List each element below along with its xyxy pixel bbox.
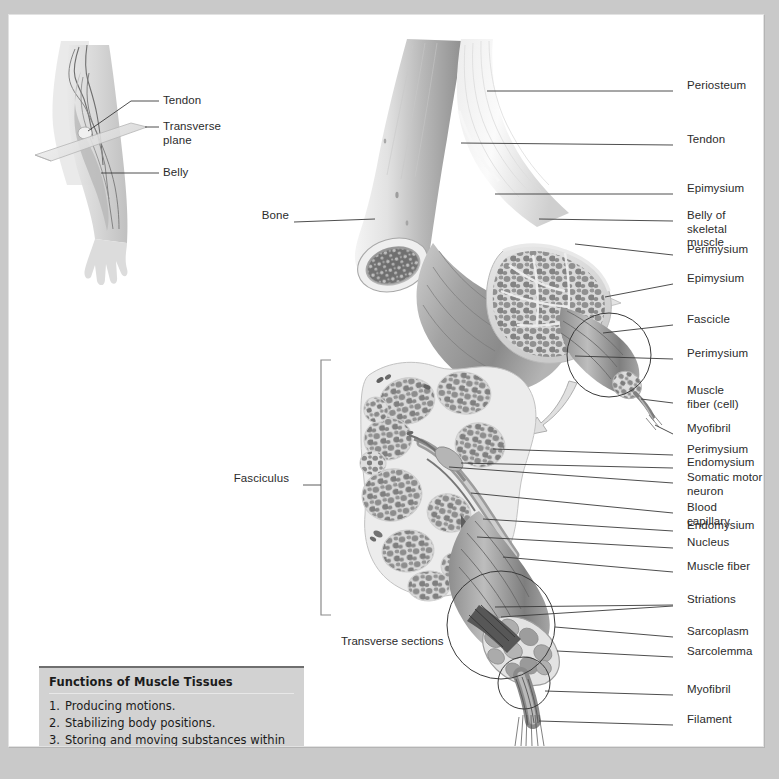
leader-filament (539, 721, 673, 725)
leader-myofibril-1 (655, 425, 673, 434)
label-myofibril-1: Myofibril (687, 422, 731, 436)
label-sarcolemma: Sarcolemma (687, 645, 753, 659)
list-item: 3. Storing and moving substances within … (49, 732, 294, 747)
left-leader-lines (294, 219, 375, 222)
list-item: 1. Producing motions. (49, 698, 294, 715)
label-filament: Filament (687, 713, 732, 727)
label-myofibril-2: Myofibril (687, 683, 731, 697)
leader-epimysium-2 (605, 284, 673, 297)
label-epimysium-2: Epimysium (687, 272, 744, 286)
list-item-number: 1. (49, 698, 60, 715)
list-item-text: Stabilizing body positions. (65, 715, 216, 732)
list-item-text: Producing motions. (65, 698, 176, 715)
leader-sarcoplasm (555, 627, 673, 637)
label-striations: Striations (687, 593, 736, 607)
functions-list: 1. Producing motions. 2. Stabilizing bod… (49, 698, 294, 747)
caption-main: Components of a skeletal muscle (403, 746, 572, 747)
list-item-number: 2. (49, 715, 60, 732)
inset-label-belly: Belly (163, 166, 188, 180)
label-endomysium-1: Endomysium (687, 456, 754, 470)
label-fasciculus: Fasciculus (179, 472, 289, 486)
label-tendon: Tendon (687, 133, 725, 147)
label-nucleus: Nucleus (687, 536, 729, 550)
leader-fascicle (603, 325, 673, 333)
tendon-illustration (457, 39, 569, 227)
list-item-number: 3. (49, 732, 60, 747)
functions-box-title: Functions of Muscle Tissues (49, 675, 294, 689)
figure-panel: Tendon Transverse plane Belly Bone Fasci… (8, 14, 764, 747)
label-perimysium-2: Perimysium (687, 347, 748, 361)
label-perimysium-1: Perimysium (687, 243, 748, 257)
functions-box-divider (49, 693, 294, 694)
label-sarcoplasm: Sarcoplasm (687, 625, 749, 639)
label-muscle-fiber: Muscle fiber (687, 560, 750, 574)
label-epimysium-1: Epimysium (687, 182, 744, 196)
label-fascicle: Fascicle (687, 313, 730, 327)
label-perimysium-3: Perimysium (687, 443, 748, 457)
inset-label-tendon: Tendon (163, 94, 201, 108)
label-periosteum: Periosteum (687, 79, 746, 93)
list-item-text: Storing and moving substances within the… (65, 732, 294, 747)
label-somatic-motor-neuron: Somatic motor neuron (687, 471, 762, 498)
page-canvas: Tendon Transverse plane Belly Bone Fasci… (0, 0, 779, 779)
caption-transverse-sections: Transverse sections (341, 635, 443, 647)
leader-myofibril-2 (545, 691, 673, 695)
arm-inset-illustration (35, 41, 147, 285)
leader-muscle-fiber (503, 557, 673, 572)
leader-sarcolemma (557, 651, 673, 657)
leader-bone (294, 219, 375, 222)
inset-label-transverse-plane: Transverse plane (163, 120, 221, 147)
list-item: 2. Stabilizing body positions. (49, 715, 294, 732)
label-muscle-fiber-cell: Muscle fiber (cell) (687, 384, 739, 411)
label-bone: Bone (179, 209, 289, 223)
label-endomysium-2: Endomysium (687, 519, 754, 533)
functions-of-muscle-tissues-box: Functions of Muscle Tissues 1. Producing… (39, 666, 304, 747)
leader-belly-of-skeletal-muscle (539, 219, 673, 221)
fasciculus-bracket (303, 360, 331, 615)
leader-perimysium-1 (575, 244, 673, 255)
